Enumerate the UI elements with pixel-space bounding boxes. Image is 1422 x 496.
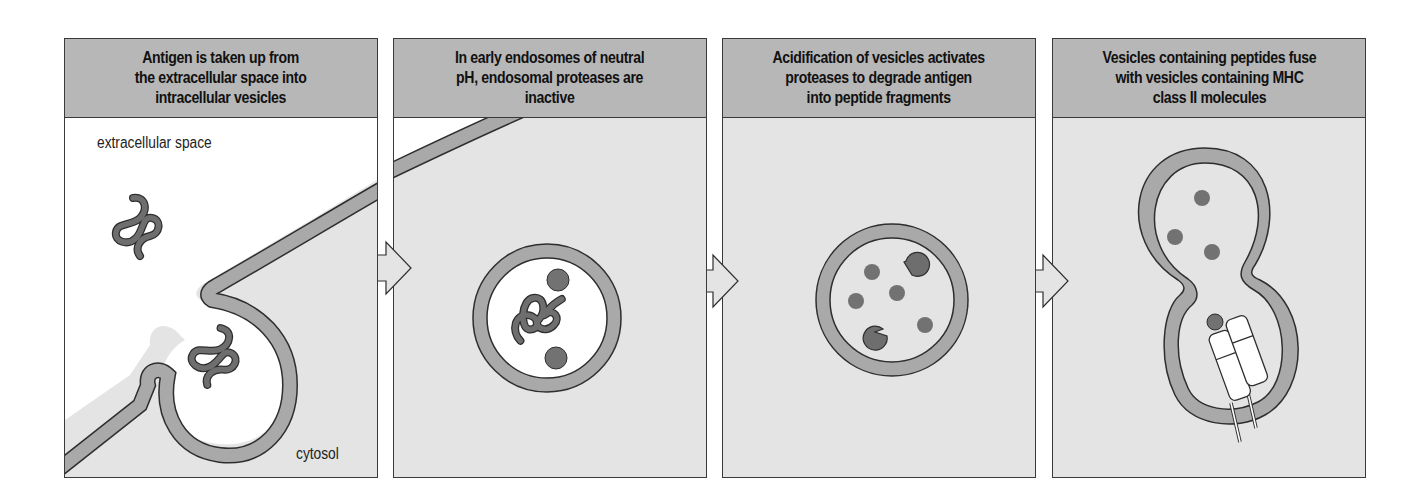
extracellular-space-label: extracellular space (97, 134, 212, 152)
panel-3-title: Acidification of vesicles activates prot… (773, 48, 985, 108)
panel-2-title: In early endosomes of neutral pH, endoso… (455, 48, 644, 108)
panel-3-header: Acidification of vesicles activates prot… (723, 39, 1035, 118)
cytosol-label: cytosol (296, 445, 339, 463)
panel-1-header: Antigen is taken up from the extracellul… (65, 39, 377, 118)
panel-3: Acidification of vesicles activates prot… (722, 38, 1036, 478)
panel-2-header: In early endosomes of neutral pH, endoso… (394, 39, 706, 118)
panel-2: In early endosomes of neutral pH, endoso… (393, 38, 707, 478)
panel-4-title: Vesicles containing peptides fuse with v… (1102, 48, 1316, 108)
panel-1-title: Antigen is taken up from the extracellul… (135, 48, 307, 108)
panel-4: Vesicles containing peptides fuse with v… (1052, 38, 1366, 478)
panel-1: Antigen is taken up from the extracellul… (64, 38, 378, 478)
panel-4-header: Vesicles containing peptides fuse with v… (1053, 39, 1365, 118)
